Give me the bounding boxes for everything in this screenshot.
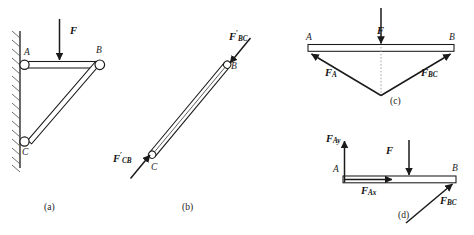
pin-joint-b xyxy=(95,60,105,70)
pin-joint-a xyxy=(20,60,29,69)
caption-panel-a: (a) xyxy=(44,203,55,213)
fax-sub: Ax xyxy=(368,189,376,197)
fax-base: F xyxy=(361,185,368,196)
label-force-fax: FAx xyxy=(361,186,376,197)
label-force-f-panel-c: F xyxy=(377,26,384,37)
fcb-prime-base: F xyxy=(113,153,120,164)
member-cb-isolated xyxy=(150,63,230,157)
label-force-fbc-panel-d: FBC xyxy=(440,196,457,207)
fa-sub: A xyxy=(332,71,337,79)
label-point-b-panel-c: B xyxy=(449,33,455,43)
fbc-c-base: F xyxy=(421,67,428,78)
label-force-fbc-panel-c: FBC xyxy=(421,68,438,79)
pin-joint-c xyxy=(20,137,29,146)
fbc-prime-sub: BC xyxy=(238,35,248,43)
caption-panel-c: (c) xyxy=(390,97,401,107)
fcb-prime-sub: CB xyxy=(122,157,132,165)
label-point-b-panel-a: B xyxy=(96,46,102,56)
wall-hatching xyxy=(12,31,20,172)
engineering-figure: A B C F (a) F′CB C F′BC B (b) A B F FA F… xyxy=(0,0,474,235)
label-force-fay: FAy xyxy=(326,134,340,145)
member-ab xyxy=(24,62,100,69)
panel-c-group xyxy=(308,8,454,96)
label-force-fbc-prime: F′BC xyxy=(229,29,248,43)
label-point-c-panel-b: C xyxy=(151,163,157,173)
force-arrow-fa xyxy=(312,54,382,96)
force-arrow-fcb-prime xyxy=(131,155,151,179)
label-point-b-panel-b: B xyxy=(231,62,237,72)
caption-panel-d: (d) xyxy=(398,211,409,221)
label-point-a-panel-a: A xyxy=(24,48,30,58)
fbc-d-base: F xyxy=(440,195,447,206)
label-force-f-panel-a: F xyxy=(70,26,77,37)
fay-base: F xyxy=(326,133,333,144)
label-force-fa: FA xyxy=(325,68,337,79)
label-point-b-panel-d: B xyxy=(452,164,458,174)
fa-base: F xyxy=(325,67,332,78)
fbc-c-sub: BC xyxy=(428,71,438,79)
label-point-a-panel-c: A xyxy=(306,33,312,43)
caption-panel-b: (b) xyxy=(182,203,193,213)
fbc-prime-base: F xyxy=(229,31,236,42)
label-point-a-panel-d: A xyxy=(333,165,339,175)
label-point-c-panel-a: C xyxy=(22,148,28,158)
label-force-fcb-prime: F′CB xyxy=(113,151,132,165)
fay-sub: Ay xyxy=(333,137,340,145)
label-force-f-panel-d: F xyxy=(386,146,393,157)
panel-b-group xyxy=(131,38,251,179)
fbc-d-sub: BC xyxy=(447,199,457,207)
force-arrow-fbc-c xyxy=(381,54,451,96)
member-cb xyxy=(28,61,100,143)
